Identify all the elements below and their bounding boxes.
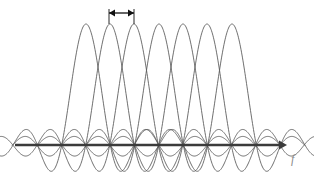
frequency-axis-label: f [291,152,294,167]
ofdm-spectrum-figure [0,0,314,180]
